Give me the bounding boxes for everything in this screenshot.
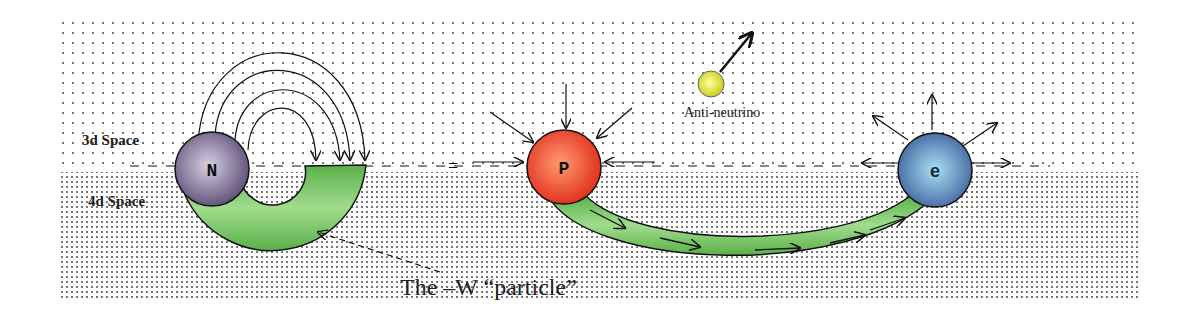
antineutrino-label: Anti-neutrino: [684, 105, 760, 120]
equals-sign: =: [448, 156, 458, 176]
neutron-label: N: [207, 161, 218, 181]
electron-particle: e: [898, 133, 972, 207]
4d-space-label: 4d Space: [88, 193, 145, 209]
w-particle-caption: The –W “particle”: [400, 274, 577, 300]
proton-label: P: [559, 159, 570, 179]
3d-space-label: 3d Space: [82, 132, 139, 148]
electron-label: e: [930, 161, 940, 181]
weak-decay-diagram: 3d Space 4d Space N = P: [0, 0, 1192, 312]
neutron-particle: N: [175, 132, 249, 206]
proton-particle: P: [527, 130, 601, 204]
